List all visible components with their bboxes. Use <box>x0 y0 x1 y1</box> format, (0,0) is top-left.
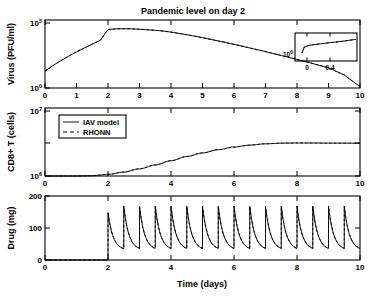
cd8-curve-rhonn <box>45 143 360 176</box>
inset-ytick: 100 <box>283 49 293 58</box>
svg-text:4: 4 <box>169 179 174 188</box>
drug-ytick-100: 100 <box>29 224 43 233</box>
svg-text:10: 10 <box>356 179 365 188</box>
virus-xtick-labels: 0 1 2 3 4 5 6 7 8 9 10 <box>43 91 365 100</box>
panel-virus: 105 100 0 1 2 <box>6 18 365 100</box>
inset-tick-marks <box>307 33 330 61</box>
figure-container: Pandemic level on day 2 105 100 <box>0 0 372 296</box>
cd8-plot-area <box>45 143 360 176</box>
svg-text:2: 2 <box>106 91 111 100</box>
svg-text:4: 4 <box>169 91 174 100</box>
figure-svg: Pandemic level on day 2 105 100 <box>0 0 372 296</box>
svg-text:4: 4 <box>169 263 174 272</box>
cd8-xtick-labels: 0 2 4 6 8 10 <box>43 179 365 188</box>
legend: IAV model RHONN <box>59 115 126 138</box>
svg-text:3: 3 <box>137 91 142 100</box>
inset-xtick-1: 0.4 <box>325 64 334 71</box>
inset-curve-rhonn <box>302 39 356 53</box>
cd8-curve-iav-model <box>45 143 360 176</box>
virus-plot-area <box>45 29 360 87</box>
cd8-ytick-lower: 106 <box>30 171 42 181</box>
drug-plot-area <box>45 206 360 260</box>
virus-ytick-marks <box>45 23 50 88</box>
svg-text:0: 0 <box>43 91 48 100</box>
figure-title: Pandemic level on day 2 <box>141 6 245 16</box>
svg-text:0: 0 <box>43 263 48 272</box>
svg-text:10: 10 <box>356 263 365 272</box>
svg-text:0: 0 <box>43 179 48 188</box>
inset-curve-iav-model <box>302 39 356 53</box>
panel-drug: 200 100 0 0 2 4 6 8 <box>6 192 365 289</box>
virus-ylabel: Virus (PFU/ml) <box>6 23 16 85</box>
legend-label-iav-model: IAV model <box>83 118 119 127</box>
svg-text:6: 6 <box>232 179 237 188</box>
svg-text:2: 2 <box>106 263 111 272</box>
svg-text:10: 10 <box>356 91 365 100</box>
svg-text:6: 6 <box>232 91 237 100</box>
virus-curve-iav-model <box>45 29 360 87</box>
svg-text:8: 8 <box>295 179 300 188</box>
inset-xtick-0: 0 <box>305 64 309 71</box>
cd8-ytick-upper: 107 <box>30 106 42 116</box>
svg-text:7: 7 <box>263 91 268 100</box>
drug-xtick-labels: 0 2 4 6 8 10 <box>43 263 365 272</box>
panel-cd8: 107 106 0 2 4 6 <box>6 106 365 188</box>
svg-text:9: 9 <box>326 91 331 100</box>
drug-ylabel: Drug (mg) <box>6 207 16 250</box>
svg-text:2: 2 <box>106 179 111 188</box>
svg-text:1: 1 <box>74 91 79 100</box>
svg-text:6: 6 <box>232 263 237 272</box>
virus-ytick-lower: 100 <box>30 83 42 93</box>
drug-ytick-200: 200 <box>29 192 43 201</box>
virus-ytick-upper: 105 <box>30 18 42 28</box>
virus-axes-frame <box>45 20 360 88</box>
svg-text:8: 8 <box>295 91 300 100</box>
svg-text:8: 8 <box>295 263 300 272</box>
legend-label-rhonn: RHONN <box>83 128 111 137</box>
cd8-ylabel: CD8+ T (cells) <box>6 112 16 172</box>
figure-xlabel: Time (days) <box>177 279 227 289</box>
virus-xtick-marks <box>45 20 360 88</box>
svg-text:5: 5 <box>200 91 205 100</box>
